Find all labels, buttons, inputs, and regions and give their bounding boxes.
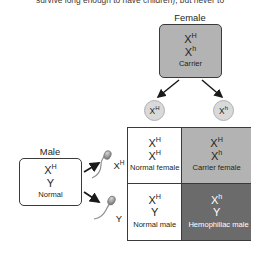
arrow-female-to-egg-XH [158, 80, 179, 97]
offspring-allele-1: XH [148, 194, 161, 207]
page-caption-clipped: survive long enough to have children), b… [0, 0, 260, 7]
offspring-allele-2: XH [148, 150, 161, 163]
female-parent-box: XH Xh Carrier [159, 24, 222, 78]
male-phenotype: Normal [38, 190, 62, 200]
offspring-allele-2: Y [151, 206, 158, 219]
offspring-phenotype: Hemophiliac male [184, 220, 248, 230]
male-parent-label: Male [20, 146, 80, 157]
female-phenotype: Carrier [179, 59, 202, 69]
page-caption-text: survive long enough to have children), b… [0, 0, 260, 6]
offspring-cell-normal-female: XH XH Normal female [128, 128, 182, 184]
offspring-cell-hemophiliac-male: Xh Y Hemophiliac male [182, 184, 250, 240]
male-parent-box: XH Y Normal [19, 158, 82, 206]
offspring-allele-2: Y [213, 206, 220, 219]
offspring-allele-1: Xh [211, 194, 222, 207]
punnett-square-diagram: survive long enough to have children), b… [0, 0, 260, 255]
female-allele-2: Xh [185, 46, 196, 59]
offspring-phenotype: Normal male [133, 220, 176, 230]
egg-gamete-Xh: Xh [213, 100, 234, 121]
offspring-cell-carrier-female: XH Xh Carrier female [182, 128, 250, 184]
arrow-male-to-sperm-XH [84, 163, 99, 172]
offspring-punnett-grid: XH XH Normal female XH Xh Carrier female… [127, 127, 251, 241]
male-allele-2: Y [47, 177, 54, 190]
offspring-cell-normal-male: XH Y Normal male [128, 184, 182, 240]
female-parent-label: Female [160, 12, 220, 23]
arrow-male-to-sperm-Y [84, 192, 99, 202]
arrow-female-to-egg-Xh [202, 80, 222, 97]
offspring-phenotype: Normal female [130, 163, 179, 173]
offspring-allele-2: Xh [211, 150, 222, 163]
male-allele-1: XH [44, 164, 57, 177]
egg-gamete-XH: XH [144, 100, 165, 121]
offspring-phenotype: Carrier female [193, 163, 241, 173]
